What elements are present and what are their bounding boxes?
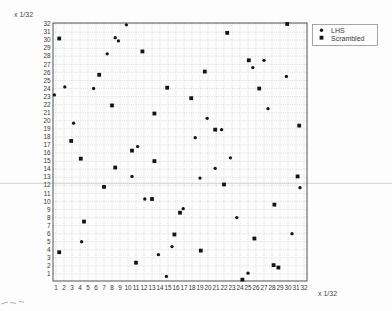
- scrambled-point: [272, 263, 276, 267]
- y-tick-label: 18: [43, 133, 51, 140]
- x-tick-label: 26: [252, 284, 260, 291]
- lhs-point: [198, 176, 201, 179]
- lhs-point: [285, 75, 288, 78]
- y-tick-label: 31: [43, 28, 51, 35]
- y-tick-label: 29: [43, 44, 51, 51]
- scrambled-point: [247, 58, 251, 62]
- y-tick-label: 3: [47, 254, 51, 261]
- lhs-point: [92, 87, 95, 90]
- point-layer: [53, 22, 302, 281]
- x-tick-label: 20: [204, 284, 212, 291]
- y-tick-label: 21: [43, 109, 51, 116]
- legend: LHS Scrambled: [313, 25, 378, 46]
- x-tick-label: 21: [212, 284, 220, 291]
- x-tick-label: 30: [284, 284, 292, 291]
- lhs-point: [125, 23, 128, 26]
- y-tick-label: 30: [43, 36, 51, 43]
- scrambled-point: [178, 211, 182, 215]
- scrambled-point: [173, 233, 177, 237]
- lhs-point: [165, 275, 168, 278]
- scrambled-point: [134, 261, 138, 265]
- y-tick-label: 11: [44, 190, 51, 197]
- scrambled-point: [130, 149, 134, 153]
- lhs-point: [251, 66, 254, 69]
- scatter-figure: 1234567891011121314151617181920212223242…: [0, 0, 392, 311]
- y-tick-label: 16: [43, 149, 51, 156]
- x-tick-label: 27: [260, 284, 268, 291]
- lhs-point: [194, 136, 197, 139]
- y-tick-label: 20: [43, 117, 51, 124]
- x-tick-label: 32: [300, 284, 308, 291]
- x-tick-label: 14: [156, 284, 164, 291]
- lhs-point: [246, 272, 249, 275]
- lhs-point: [106, 52, 109, 55]
- lhs-point: [220, 128, 223, 131]
- y-tick-label: 19: [43, 125, 51, 132]
- scrambled-point: [57, 37, 61, 41]
- lhs-point: [63, 85, 66, 88]
- lhs-point: [130, 175, 133, 178]
- y-axis-unit-label: x 1/32: [14, 11, 33, 18]
- x-tick-label: 22: [220, 284, 228, 291]
- y-tick-label: 5: [47, 238, 51, 245]
- scrambled-point: [225, 31, 229, 35]
- x-tick-label: 4: [78, 284, 82, 291]
- scrambled-point: [102, 185, 106, 189]
- x-axis-unit-label: x 1/32: [318, 290, 337, 297]
- x-tick-label: 5: [86, 284, 90, 291]
- lhs-point: [298, 186, 301, 189]
- lhs-point: [262, 59, 265, 62]
- lhs-point: [170, 245, 173, 248]
- y-tick-label: 4: [47, 246, 51, 253]
- y-tick-label: 24: [43, 85, 51, 92]
- x-tick-label: 19: [196, 284, 204, 291]
- legend-label-lhs: LHS: [331, 27, 345, 34]
- lhs-point: [206, 117, 209, 120]
- x-tick-label: 16: [172, 284, 180, 291]
- y-tick-label: 15: [43, 157, 51, 164]
- figure-canvas: 1234567891011121314151617181920212223242…: [0, 0, 392, 311]
- scrambled-point: [297, 124, 301, 128]
- scrambled-point: [113, 166, 117, 170]
- y-tick-label: 25: [43, 77, 51, 84]
- y-tick-label: 10: [43, 198, 51, 205]
- scrambled-point: [222, 183, 226, 187]
- scrambled-point: [257, 87, 261, 91]
- y-tick-label: 32: [43, 20, 51, 27]
- x-tick-label: 11: [133, 284, 140, 291]
- x-tick-label: 31: [292, 284, 300, 291]
- x-tick-label: 6: [94, 284, 98, 291]
- x-tick-label: 7: [102, 284, 106, 291]
- scrambled-point: [199, 249, 203, 253]
- x-tick-label: 29: [276, 284, 284, 291]
- plot-border: [53, 23, 307, 281]
- scrambled-point: [110, 104, 114, 108]
- scrambled-point: [69, 139, 73, 143]
- y-tick-label: 6: [47, 230, 51, 237]
- lhs-point: [290, 232, 293, 235]
- legend-label-scrambled: Scrambled: [331, 35, 365, 42]
- y-tick-label: 26: [43, 69, 51, 76]
- lhs-point: [229, 156, 232, 159]
- y-tick-label: 27: [43, 61, 51, 68]
- y-tick-label: 1: [47, 270, 51, 277]
- scan-artifact-marks: [1, 302, 24, 305]
- y-tick-label: 2: [47, 262, 51, 269]
- lhs-point: [214, 167, 217, 170]
- lhs-point: [80, 240, 83, 243]
- y-tick-label: 13: [43, 173, 51, 180]
- scrambled-point: [97, 73, 101, 77]
- x-tick-label: 23: [228, 284, 236, 291]
- y-tick-label: 22: [43, 101, 51, 108]
- y-tick-label: 9: [47, 206, 51, 213]
- x-tick-label: 24: [236, 284, 244, 291]
- lhs-point: [117, 39, 120, 42]
- scrambled-point: [277, 266, 281, 270]
- scrambled-point: [189, 96, 193, 100]
- lhs-point: [143, 197, 146, 200]
- x-tick-label: 18: [188, 284, 196, 291]
- x-tick-label: 13: [148, 284, 156, 291]
- scrambled-point: [165, 86, 169, 90]
- y-tick-label: 23: [43, 93, 51, 100]
- legend-marker-square: [320, 36, 324, 40]
